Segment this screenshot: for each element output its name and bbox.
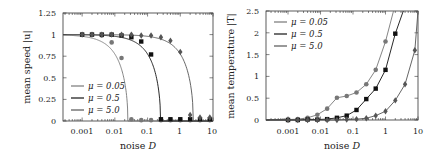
curve-1 [63,35,213,121]
data-point [168,117,172,121]
left-ytick: 0 [51,117,56,126]
left-ytick: 0.75 [38,52,56,61]
data-point [159,117,163,121]
legend-label: μ = 5.0 [291,41,323,51]
right-xtick: 1 [383,127,388,136]
left-ylabel: mean speed |u| [21,30,33,103]
right-ylabel: mean temperature |T| [225,13,237,119]
left-ytick: 1 [51,31,56,40]
right-ytick: 2.5 [246,7,259,16]
curve-2 [266,11,418,120]
data-point [315,112,320,117]
data-point [383,39,388,44]
data-point [354,90,359,95]
left-ytick: 0.25 [38,95,56,104]
data-point [90,31,94,37]
data-point [383,68,387,72]
data-point [335,95,340,100]
data-point [139,39,143,43]
left-xtick: 10 [207,127,217,136]
left-xtick: 0.01 [106,127,124,136]
data-point [129,117,134,122]
data-point [178,117,182,121]
data-point [119,56,124,61]
left-xtick: 1 [177,127,182,136]
left-xtick: 0.001 [71,127,94,136]
data-point [109,31,113,37]
right-xtick: 0.01 [312,127,330,136]
data-point [413,47,417,53]
left-xtick: 0.1 [141,127,154,136]
curve-0 [63,35,213,121]
data-point [286,117,290,123]
data-point [325,106,330,111]
data-point [109,40,114,45]
data-point [149,118,154,123]
right-ytick: 0.5 [246,94,259,103]
left-ytick: 1.25 [38,9,56,18]
curve-2 [63,35,213,121]
right-ytick: 1.5 [246,51,259,60]
legend-label: μ = 0.5 [88,93,120,103]
data-point [374,86,378,90]
right-xtick: 0.001 [277,127,300,136]
data-point [393,31,397,35]
left-legend: μ = 0.05 μ = 0.5 μ = 5.0 [71,81,125,115]
left-plot-frame [63,13,213,121]
data-point [178,49,182,55]
legend-label: μ = 0.5 [291,29,323,39]
data-point [364,97,368,101]
data-point [354,116,358,122]
figure: 1.25 1 0.75 0.5 0.25 0 0.001 0.01 0.1 1 … [0,0,440,155]
right-ytick: 2 [254,29,259,38]
data-point [139,32,143,38]
right-ytick: 0 [254,116,259,125]
right-xtick: 10 [413,127,423,136]
legend-label: μ = 0.05 [291,17,328,27]
left-xlabel: noise D [120,140,156,151]
data-point [373,68,378,73]
right-chart: 2.5 2 1.5 1 0.5 0 0.001 0.01 0.1 1 10 no… [225,7,423,151]
legend-label: μ = 0.05 [88,81,125,91]
data-point [344,94,349,99]
left-ytick: 0.5 [43,74,56,83]
data-point [139,118,144,123]
data-point [364,115,368,121]
data-point [149,52,153,56]
data-point [354,108,358,112]
curve-1 [266,11,403,120]
right-plot-frame [266,11,418,120]
data-point [374,112,378,118]
right-xtick: 0.1 [347,127,360,136]
curve-0 [266,11,394,120]
right-ytick: 1 [254,72,259,81]
data-point [364,82,369,87]
right-xlabel: noise D [324,140,360,151]
data-point [149,32,153,38]
legend-label: μ = 5.0 [88,105,120,115]
right-legend: μ = 0.05 μ = 0.5 μ = 5.0 [274,17,328,51]
left-chart: 1.25 1 0.75 0.5 0.25 0 0.001 0.01 0.1 1 … [21,9,217,151]
